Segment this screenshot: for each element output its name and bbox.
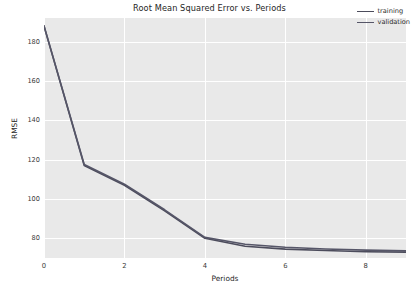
x-tick-label: 0 bbox=[29, 262, 59, 270]
legend-item-validation: validation bbox=[357, 17, 410, 27]
x-tick-label: 4 bbox=[190, 262, 220, 270]
x-tick-label: 6 bbox=[270, 262, 300, 270]
chart-figure: Root Mean Squared Error vs. Periods 8010… bbox=[0, 0, 419, 294]
legend-label-training: training bbox=[378, 7, 404, 15]
x-axis-label: Periods bbox=[44, 274, 406, 283]
series-line-training bbox=[44, 26, 406, 252]
series-line-validation bbox=[44, 26, 406, 251]
y-axis-label: RMSE bbox=[10, 99, 19, 159]
legend-swatch-training bbox=[357, 11, 374, 12]
chart-legend: training validation bbox=[354, 4, 413, 30]
y-tick-label: 180 bbox=[6, 38, 40, 46]
y-axis-ticks: 80100120140160180 bbox=[2, 18, 40, 258]
x-tick-label: 8 bbox=[351, 262, 381, 270]
x-axis-ticks: 02468 bbox=[44, 262, 406, 274]
x-tick-label: 2 bbox=[109, 262, 139, 270]
plot-area bbox=[44, 18, 406, 258]
legend-label-validation: validation bbox=[378, 18, 410, 26]
series-lines bbox=[44, 18, 406, 258]
y-tick-label: 160 bbox=[6, 77, 40, 85]
legend-item-training: training bbox=[357, 6, 410, 16]
y-tick-label: 100 bbox=[6, 195, 40, 203]
y-tick-label: 80 bbox=[6, 234, 40, 242]
legend-swatch-validation bbox=[357, 22, 374, 23]
